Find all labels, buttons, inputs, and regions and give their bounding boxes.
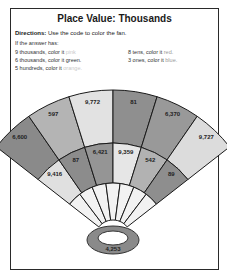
fan-diagram: 6,6009,416597879,7726,421819,3596,370542… xyxy=(0,0,227,278)
fan-handle-hole xyxy=(98,231,128,245)
fan-middle-label: 9,416 xyxy=(47,171,63,177)
fan-middle-label: 6,421 xyxy=(93,149,109,155)
fan-middle-label: 9,359 xyxy=(118,149,134,155)
fan-outer-label: 81 xyxy=(130,99,137,105)
fan-outer-label: 6,370 xyxy=(165,111,181,117)
fan-middle-label: 87 xyxy=(72,157,79,163)
fan-outer-label: 597 xyxy=(48,111,59,117)
fan-outer-label: 9,772 xyxy=(85,99,101,105)
fan-outer-label: 6,600 xyxy=(12,134,28,140)
fan-handle-label: 4,253 xyxy=(105,246,121,252)
fan-middle-label: 542 xyxy=(145,157,156,163)
fan-outer-label: 9,727 xyxy=(199,134,215,140)
fan-middle-label: 89 xyxy=(168,171,175,177)
